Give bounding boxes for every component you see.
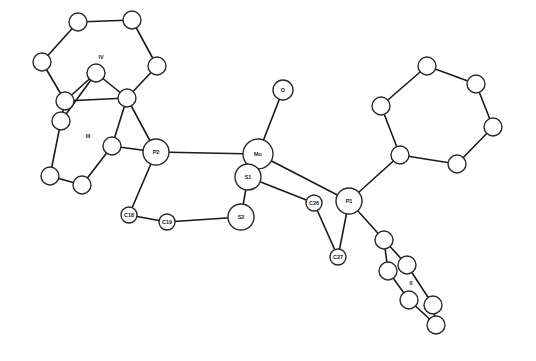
atom-e5 — [424, 296, 442, 314]
atom-label: Mo — [254, 151, 263, 157]
atom-circle — [69, 13, 87, 31]
atom-label: C27 — [333, 254, 343, 260]
atom-circle — [484, 118, 502, 136]
ring-label-III: III — [86, 133, 91, 139]
atom-e4 — [427, 316, 445, 334]
atom-label: C19 — [162, 219, 172, 225]
atom-label: C26 — [309, 200, 319, 206]
atom-circle — [41, 167, 59, 185]
atom-circle — [379, 262, 397, 280]
atom-label: P2 — [153, 149, 160, 155]
atom-circle — [418, 57, 436, 75]
atom-label: O — [281, 87, 286, 93]
ring-label-II: II — [409, 280, 413, 286]
atom-circle — [148, 57, 166, 75]
atom-e3 — [400, 291, 418, 309]
atom-circle — [424, 296, 442, 314]
atom-d6 — [448, 155, 466, 173]
atom-a5 — [56, 92, 74, 110]
bond-C26-C27 — [314, 203, 338, 257]
molecule-diagram: OMoS1S2P1P2C18C19C26C27 IVIIIII — [0, 0, 536, 361]
atom-C26: C26 — [306, 195, 322, 211]
atom-circle — [118, 89, 136, 107]
atom-circle — [372, 97, 390, 115]
atom-S1: S1 — [235, 164, 261, 190]
atom-c3 — [73, 176, 91, 194]
atom-circle — [400, 291, 418, 309]
atom-circle — [391, 146, 409, 164]
atom-label: S1 — [245, 174, 252, 180]
atom-C18: C18 — [121, 207, 137, 223]
atom-circle — [33, 53, 51, 71]
atom-circle — [448, 155, 466, 173]
atom-e1 — [375, 231, 393, 249]
atom-C27: C27 — [330, 249, 346, 265]
atom-C19: C19 — [159, 214, 175, 230]
atom-circle — [52, 112, 70, 130]
atom-circle — [87, 64, 105, 82]
atom-a1 — [69, 13, 87, 31]
atom-circle — [467, 75, 485, 93]
ring-label-IV: IV — [98, 54, 104, 60]
atom-label: P1 — [346, 198, 353, 204]
atom-a3 — [148, 57, 166, 75]
atom-circle — [123, 11, 141, 29]
atom-label: S2 — [238, 214, 245, 220]
atom-e2 — [379, 262, 397, 280]
atom-circle — [398, 256, 416, 274]
molecule-svg: OMoS1S2P1P2C18C19C26C27 IVIIIII — [0, 0, 536, 361]
atom-c1 — [52, 112, 70, 130]
atom-d4 — [467, 75, 485, 93]
atom-circle — [375, 231, 393, 249]
atom-P1: P1 — [336, 188, 362, 214]
atom-d5 — [484, 118, 502, 136]
atom-P2: P2 — [143, 139, 169, 165]
atom-e6 — [398, 256, 416, 274]
atom-b2 — [118, 89, 136, 107]
atom-a6 — [33, 53, 51, 71]
atom-d3 — [418, 57, 436, 75]
atom-a2 — [123, 11, 141, 29]
atom-S2: S2 — [228, 204, 254, 230]
atom-b1 — [87, 64, 105, 82]
atom-c2 — [41, 167, 59, 185]
atom-label: C18 — [124, 212, 134, 218]
atom-circle — [73, 176, 91, 194]
atom-c4 — [103, 137, 121, 155]
atom-circle — [56, 92, 74, 110]
atom-circle — [427, 316, 445, 334]
atom-d2 — [372, 97, 390, 115]
atom-d1 — [391, 146, 409, 164]
atom-circle — [103, 137, 121, 155]
atom-O: O — [273, 80, 293, 100]
